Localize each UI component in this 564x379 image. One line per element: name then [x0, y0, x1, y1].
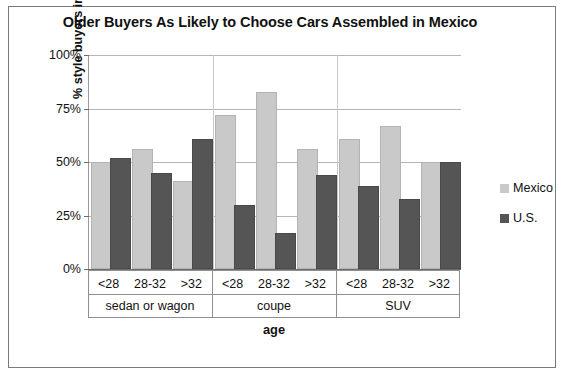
car-type-label: coupe [212, 296, 336, 316]
category-axis-table: <2828-32>32<2828-32>32<2828-32>32sedan o… [88, 270, 460, 318]
bar-mexico-0 [91, 162, 112, 269]
cat-table-divider [88, 270, 89, 318]
legend-label: U.S. [513, 211, 538, 225]
cat-table-divider [459, 270, 460, 318]
age-group-label: <28 [88, 274, 129, 294]
gridline [89, 55, 461, 56]
group-divider [213, 55, 214, 269]
cat-table-top-rule [88, 270, 460, 271]
group-divider [337, 55, 338, 269]
bar-us-3 [234, 205, 255, 269]
bar-us-4 [275, 233, 296, 269]
y-axis-tick [84, 162, 89, 163]
legend-item[interactable]: Mexico [500, 173, 553, 203]
bar-us-6 [358, 186, 379, 269]
bar-us-8 [440, 162, 461, 269]
legend-swatch-icon [500, 184, 509, 193]
bar-mexico-3 [215, 115, 236, 269]
bar-mexico-1 [132, 149, 153, 269]
bar-mexico-5 [297, 149, 318, 269]
cat-table-bottom-rule [88, 317, 460, 318]
age-group-label: 28-32 [129, 274, 170, 294]
cat-table-divider [336, 270, 337, 318]
chart-title: Older Buyers As Likely to Choose Cars As… [20, 14, 520, 30]
bar-mexico-6 [339, 139, 360, 269]
plot-area: % style buyers in age x car type categor… [88, 55, 461, 269]
age-group-label: 28-32 [253, 274, 294, 294]
y-axis-tick-label: 25% [37, 209, 81, 223]
y-axis-tick [84, 109, 89, 110]
age-group-label: >32 [171, 274, 212, 294]
age-group-label: 28-32 [377, 274, 418, 294]
legend-swatch-icon [500, 214, 509, 223]
bar-us-0 [110, 158, 131, 269]
car-type-label: SUV [336, 296, 460, 316]
y-axis-tick [84, 216, 89, 217]
age-group-label: <28 [212, 274, 253, 294]
age-group-label: >32 [419, 274, 460, 294]
chart-container: Older Buyers As Likely to Choose Cars As… [0, 0, 564, 379]
cat-table-divider [212, 270, 213, 318]
y-axis-tick-label: 100% [37, 48, 81, 62]
age-group-label: <28 [336, 274, 377, 294]
age-group-label: >32 [295, 274, 336, 294]
legend-label: Mexico [513, 181, 553, 195]
chart-legend: MexicoU.S. [500, 173, 553, 233]
bar-us-7 [399, 199, 420, 269]
bar-us-5 [316, 175, 337, 269]
bar-mexico-8 [421, 162, 442, 269]
bar-us-2 [192, 139, 213, 269]
bar-mexico-4 [256, 92, 277, 269]
y-axis-tick [84, 55, 89, 56]
car-type-label: sedan or wagon [88, 296, 212, 316]
bar-mexico-7 [380, 126, 401, 269]
y-axis-tick-label: 50% [37, 155, 81, 169]
y-axis-tick-label: 0% [37, 262, 81, 276]
legend-item[interactable]: U.S. [500, 203, 553, 233]
y-axis-tick-label: 75% [37, 102, 81, 116]
bar-us-1 [151, 173, 172, 269]
bar-mexico-2 [173, 181, 194, 269]
x-axis-title: age [88, 322, 460, 337]
cat-table-mid-rule [88, 294, 460, 295]
